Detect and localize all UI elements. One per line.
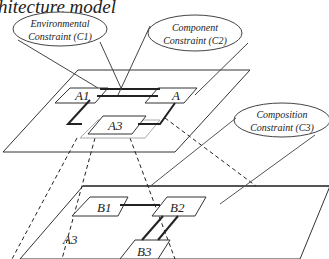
component-b3-label: B3 (137, 244, 152, 259)
component-a3-label: A3 (107, 118, 123, 133)
c3-line2: Constraint (C3) (250, 122, 314, 134)
constraint-c3: Composition Constraint (C3) (234, 103, 329, 137)
top-plane (3, 70, 250, 152)
c2-line1: Component (172, 22, 218, 33)
c1-line2: Constraint (C1) (28, 31, 92, 43)
c2-line2: Constraint (C2) (163, 35, 227, 47)
constraint-c1: Environmental Constraint (C1) (13, 12, 107, 46)
bottom-plane-label: A3 (62, 232, 78, 247)
c1-line1: Environmental (29, 18, 89, 29)
component-b1-label: B1 (97, 200, 111, 215)
component-b2-label: B2 (170, 200, 185, 215)
constraint-c2: Component Constraint (C2) (148, 15, 242, 51)
component-a1-label: A1 (74, 88, 89, 103)
component-a-label: A (171, 88, 180, 103)
c3-line1: Composition (256, 109, 307, 120)
architecture-diagram: hitecture model A1 A A3 Environmental Co… (0, 0, 329, 259)
projection-lines (12, 118, 256, 259)
